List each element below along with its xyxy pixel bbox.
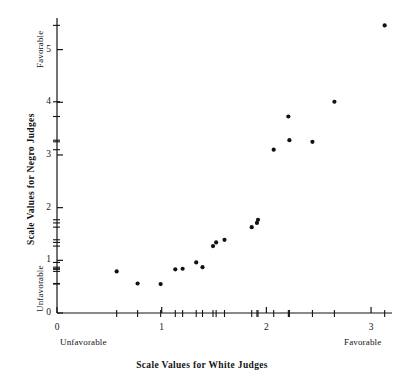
plot-canvas — [0, 0, 404, 385]
data-point — [194, 260, 198, 264]
scatter-data-points — [115, 23, 387, 286]
data-point — [256, 218, 260, 222]
y-axis-tick-label: 3 — [37, 150, 51, 160]
y-axis-title: Scale Values for Negro Judges — [27, 113, 37, 245]
data-point — [173, 267, 177, 271]
x-axis-tick-label: 3 — [369, 323, 374, 333]
x-axis-title: Scale Values for White Judges — [136, 361, 268, 371]
x-axis-tick-label: 2 — [264, 323, 269, 333]
x-axis-major-ticks — [57, 307, 371, 313]
x-axis-high-end-label: Favorable — [344, 338, 381, 347]
data-point — [181, 267, 185, 271]
data-point — [159, 282, 163, 286]
data-point — [211, 244, 215, 248]
y-axis-low-end-label: Unfavorable — [36, 265, 45, 312]
x-axis-tick-label: 0 — [55, 323, 60, 333]
data-point — [136, 281, 140, 285]
scatter-plot-figure: 0123 012345 Unfavorable Favorable Scale … — [0, 0, 404, 385]
data-point — [383, 23, 387, 27]
x-axis-low-end-label: Unfavorable — [60, 338, 107, 347]
data-point — [200, 265, 204, 269]
data-point — [286, 114, 290, 118]
data-point — [250, 225, 254, 229]
data-point — [222, 238, 226, 242]
data-point — [332, 100, 336, 104]
data-point — [214, 240, 218, 244]
y-axis-tick-label: 1 — [37, 256, 51, 266]
data-point — [115, 269, 119, 273]
y-axis-tick-label: 2 — [37, 203, 51, 213]
data-point — [287, 138, 291, 142]
data-point — [272, 148, 276, 152]
axis-lines — [57, 18, 392, 313]
data-point — [310, 140, 314, 144]
y-axis-tick-label: 4 — [37, 98, 51, 108]
x-axis-tick-label: 1 — [159, 323, 164, 333]
y-axis-high-end-label: Favorable — [36, 31, 45, 68]
y-axis-major-ticks — [57, 50, 63, 313]
